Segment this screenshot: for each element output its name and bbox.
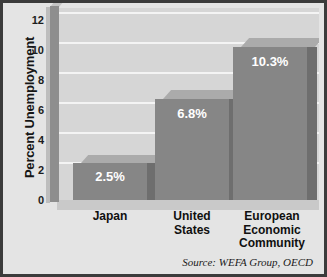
bar-united-states[interactable]: 6.8%	[155, 90, 239, 200]
y-axis-slab	[50, 6, 59, 202]
bar-eec[interactable]: 10.3%	[233, 38, 317, 200]
y-axis-title: Percent Unemployment	[22, 23, 37, 193]
plot-area: 2.5% 6.8% 10.3%	[57, 8, 319, 200]
category-label-eec: European Economic Community	[222, 210, 322, 251]
source-note: Source: WEFA Group, OECD	[182, 256, 313, 268]
y-tick-0: 0	[22, 195, 44, 206]
category-label-eec-line2: Economic	[222, 224, 322, 238]
bar-japan[interactable]: 2.5%	[73, 155, 157, 200]
bar-eec-value: 10.3%	[233, 54, 307, 69]
bar-eec-top	[241, 38, 319, 47]
category-label-eec-line1: European	[222, 210, 322, 224]
bar-united-states-value: 6.8%	[155, 106, 229, 121]
bar-japan-value: 2.5%	[73, 169, 147, 184]
category-label-eec-line3: Community	[222, 237, 322, 251]
bar-japan-top	[81, 155, 162, 163]
unemployment-bar-chart: 2.5% 6.8% 10.3% 12 10 8 6 4 2 0 Percent …	[0, 0, 327, 277]
bar-eec-front	[233, 47, 307, 200]
bar-eec-side	[307, 47, 317, 200]
gridline-12	[57, 12, 319, 14]
